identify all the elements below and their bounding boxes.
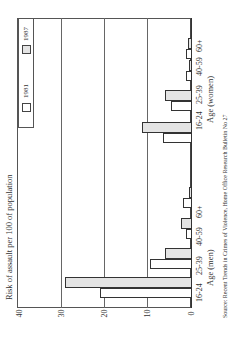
group-label-men: Age (men) bbox=[205, 249, 215, 286]
bar-agewomen-40-59-1981 bbox=[186, 71, 192, 82]
bar-agewomen-16-24-1987 bbox=[142, 122, 192, 133]
bar-agewomen-60+-1981 bbox=[186, 49, 192, 60]
tick-20: 20 bbox=[100, 306, 109, 322]
cat-men-25-39: 25-39 bbox=[195, 256, 204, 275]
cat-women-60plus: 60+ bbox=[195, 39, 204, 52]
cat-men-60plus: 60+ bbox=[195, 205, 204, 218]
legend-swatch-1987 bbox=[22, 45, 31, 54]
tick-10: 10 bbox=[143, 306, 152, 322]
group-label-women: Age (women) bbox=[205, 76, 215, 123]
tick-30: 30 bbox=[57, 306, 66, 322]
bar-agemen-60+-1981 bbox=[183, 198, 191, 209]
tick-0: 0 bbox=[187, 306, 196, 322]
bar-agemen-60+-1987 bbox=[189, 187, 191, 198]
gridline-10 bbox=[147, 18, 148, 308]
bar-agemen-16-24-1987 bbox=[65, 277, 191, 288]
value-axis-title: Risk of assault per 100 of population bbox=[4, 174, 14, 300]
cat-men-16-24: 16-24 bbox=[195, 283, 204, 302]
legend-swatch-1981 bbox=[22, 103, 31, 112]
cat-women-25-39: 25-39 bbox=[195, 85, 204, 104]
bar-agewomen-60+-1987 bbox=[188, 38, 191, 49]
bar-agemen-25-39-1987 bbox=[165, 248, 191, 259]
gridline-30 bbox=[61, 18, 62, 308]
cat-women-40-59: 40-59 bbox=[195, 57, 204, 76]
legend-label-1987: 1987 bbox=[22, 27, 30, 41]
bar-agewomen-25-39-1981 bbox=[171, 101, 191, 112]
legend: 1987 1981 bbox=[18, 18, 34, 128]
bar-agemen-40-59-1981 bbox=[186, 229, 192, 240]
source-note: Source: Recent Trends in Crimes of Viole… bbox=[222, 114, 228, 318]
bar-agewomen-16-24-1981 bbox=[163, 133, 191, 144]
bar-agemen-25-39-1981 bbox=[150, 259, 191, 270]
bar-agemen-16-24-1981 bbox=[100, 288, 191, 299]
bar-agewomen-40-59-1987 bbox=[189, 60, 191, 71]
gridline-20 bbox=[104, 18, 105, 308]
cat-men-40-59: 40-59 bbox=[195, 227, 204, 246]
bar-agewomen-25-39-1987 bbox=[165, 90, 192, 101]
legend-label-1981: 1981 bbox=[22, 84, 30, 98]
bar-agemen-40-59-1987 bbox=[181, 218, 191, 229]
cat-women-16-24: 16-24 bbox=[195, 111, 204, 130]
tick-40: 40 bbox=[15, 306, 24, 322]
